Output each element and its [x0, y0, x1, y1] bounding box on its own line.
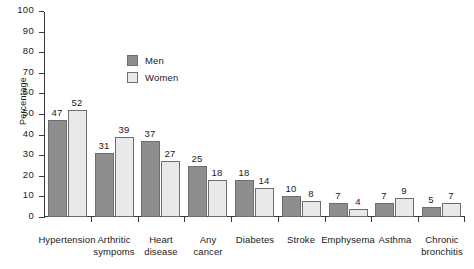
bar-men — [48, 120, 67, 217]
bar-group: 3727 — [138, 11, 183, 217]
y-axis-tick-mark — [39, 196, 44, 197]
bar-value-label: 4 — [346, 196, 370, 207]
bar-value-label: 7 — [439, 190, 463, 201]
bar-value-label: 8 — [299, 188, 323, 199]
bar-group: 74 — [326, 11, 371, 217]
bar-value-label: 27 — [158, 148, 182, 159]
y-axis-tick-mark — [39, 176, 44, 177]
x-axis-tick-mark — [184, 217, 185, 222]
bar-men — [95, 153, 114, 217]
bar-group: 108 — [279, 11, 324, 217]
y-axis-tick-mark — [39, 114, 44, 115]
bar-men — [422, 207, 441, 217]
x-axis-tick-mark — [325, 217, 326, 222]
legend-swatch-icon — [127, 72, 138, 83]
x-axis-tick-mark — [278, 217, 279, 222]
y-axis-tick-label: 70 — [23, 66, 34, 77]
bar-value-label: 14 — [252, 175, 276, 186]
y-axis-tick-mark — [39, 52, 44, 53]
x-axis-label: Chronicbronchitis — [405, 234, 474, 257]
legend-label: Women — [145, 72, 179, 83]
y-axis-tick-label: 90 — [23, 25, 34, 36]
bar-women — [208, 180, 227, 217]
legend-swatch-icon — [127, 55, 138, 66]
bar-value-label: 37 — [138, 128, 162, 139]
bar-women — [302, 201, 321, 217]
x-axis-tick-mark — [371, 217, 372, 222]
bar-group: 4752 — [45, 11, 90, 217]
bar-value-label: 25 — [185, 153, 209, 164]
bar-women — [442, 203, 461, 217]
bar-women — [115, 137, 134, 217]
bar-women — [349, 209, 368, 217]
y-axis-tick-mark — [39, 11, 44, 12]
y-axis-tick-mark — [39, 217, 44, 218]
y-axis-tick-label: 50 — [23, 107, 34, 118]
bar-men — [282, 196, 301, 217]
y-axis-tick-label: 60 — [23, 86, 34, 97]
bar-value-label: 52 — [65, 97, 89, 108]
x-axis-label-line: Chronic — [405, 234, 474, 246]
y-axis-tick-label: 10 — [23, 189, 34, 200]
y-axis-tick-label: 40 — [23, 128, 34, 139]
bar-men — [375, 203, 394, 217]
bar-value-label: 31 — [92, 140, 116, 151]
bar-women — [68, 110, 87, 217]
y-axis-tick-label: 80 — [23, 45, 34, 56]
bar-women — [161, 161, 180, 217]
y-axis-tick-label: 0 — [28, 210, 34, 221]
bar-value-label: 18 — [205, 167, 229, 178]
x-axis-tick-mark — [138, 217, 139, 222]
bar-group: 57 — [419, 11, 464, 217]
bar-women — [255, 188, 274, 217]
y-axis-tick-label: 100 — [17, 4, 34, 15]
bar-women — [395, 198, 414, 217]
x-axis-label-line: cancer — [171, 246, 245, 258]
bar-group: 3139 — [92, 11, 137, 217]
x-axis-tick-mark — [91, 217, 92, 222]
x-axis-tick-mark — [231, 217, 232, 222]
y-axis-tick-mark — [39, 73, 44, 74]
bar-group: 2518 — [185, 11, 230, 217]
x-axis-tick-mark — [464, 217, 465, 222]
legend: MenWomen — [127, 52, 179, 86]
y-axis-tick-mark — [39, 155, 44, 156]
bar-value-label: 39 — [112, 124, 136, 135]
legend-item-men[interactable]: Men — [127, 52, 179, 69]
y-axis-tick-label: 30 — [23, 148, 34, 159]
bar-value-label: 47 — [45, 107, 69, 118]
y-axis-tick-mark — [39, 32, 44, 33]
y-axis-tick-mark — [39, 93, 44, 94]
legend-label: Men — [145, 55, 164, 66]
bar-group: 79 — [372, 11, 417, 217]
y-axis-tick-label: 20 — [23, 169, 34, 180]
bar-value-label: 9 — [392, 185, 416, 196]
x-axis-label-line: bronchitis — [405, 246, 474, 258]
y-axis-tick-mark — [39, 135, 44, 136]
plot-area: 0102030405060708090100 47523139372725181… — [44, 12, 465, 217]
bar-chart: Percentage 0102030405060708090100 475231… — [0, 0, 474, 269]
bar-group: 1814 — [232, 11, 277, 217]
x-axis-tick-mark — [418, 217, 419, 222]
legend-item-women[interactable]: Women — [127, 69, 179, 86]
